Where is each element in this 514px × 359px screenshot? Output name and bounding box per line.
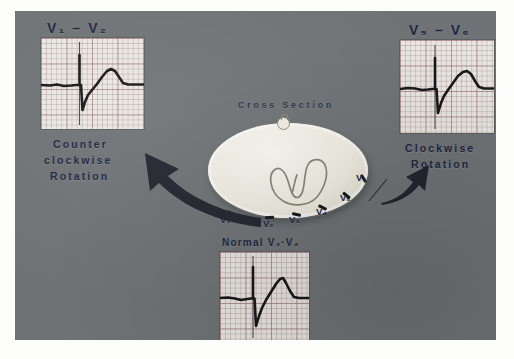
slide-panel: V₁ – V₂ Counter clockwise Rotation V₅ – … [15, 11, 496, 340]
electrode-label-v6: V₆ [356, 172, 367, 183]
heart-outline [263, 149, 345, 211]
ecg-waveform-v1-v2 [41, 38, 144, 129]
electrode-label-v3: V₃ [289, 214, 300, 225]
electrode-label-v2: V₂ [263, 218, 274, 229]
arrow-counterclockwise [123, 139, 263, 231]
ecg-strip-normal-v3-v4 [220, 252, 309, 340]
ecg-strip-v5-v6 [400, 40, 494, 133]
panel-left-caption-line1: Counter [53, 138, 108, 150]
arrow-clockwise [377, 161, 431, 205]
panel-left-caption-line2: clockwise [44, 154, 113, 166]
panel-left-title: V₁ – V₂ [47, 20, 108, 36]
electrode-label-v5: V₅ [340, 192, 351, 203]
panel-right-caption-line1: Clockwise [405, 142, 475, 154]
spine-marker [277, 117, 290, 130]
ecg-waveform-v5-v6 [400, 40, 494, 133]
panel-left-caption-line3: Rotation [50, 170, 109, 182]
panel-right-title: V₅ – V₆ [409, 22, 471, 38]
cross-section-label: Cross Section [238, 100, 334, 110]
panel-bottom-title: Normal V₃·V₄ [222, 237, 300, 248]
electrode-label-v4: V₄ [316, 206, 327, 217]
ecg-waveform-normal [220, 252, 309, 340]
ecg-strip-v1-v2 [41, 38, 144, 129]
